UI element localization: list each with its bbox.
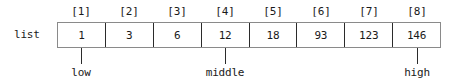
- array-container: 1 3 6 12 18 93 123 146: [57, 22, 441, 48]
- index-label-5: [5]: [249, 4, 297, 20]
- index-label-1: [1]: [57, 4, 105, 20]
- array-cell: 12: [202, 23, 250, 47]
- pointer-middle-label: middle: [206, 65, 245, 80]
- array-variable-label: list: [14, 27, 40, 43]
- pointer-middle-line: [225, 48, 227, 64]
- index-label-6: [6]: [297, 4, 345, 20]
- array-cell: 18: [250, 23, 298, 47]
- array-diagram: [1] [2] [3] [4] [5] [6] [7] [8] list 1 3…: [0, 0, 459, 83]
- index-label-7: [7]: [345, 4, 393, 20]
- index-label-4: [4]: [201, 4, 249, 20]
- array-cell: 1: [58, 23, 106, 47]
- index-label-8: [8]: [393, 4, 441, 20]
- pointer-high-label: high: [404, 65, 430, 80]
- pointer-low-line: [81, 48, 83, 64]
- array-cell: 146: [393, 23, 440, 47]
- array-cell: 123: [345, 23, 393, 47]
- pointer-low-label: low: [71, 65, 90, 80]
- index-label-3: [3]: [153, 4, 201, 20]
- pointer-high-line: [417, 48, 419, 64]
- array-cell: 6: [154, 23, 202, 47]
- index-label-2: [2]: [105, 4, 153, 20]
- array-cell: 93: [297, 23, 345, 47]
- array-cell: 3: [106, 23, 154, 47]
- index-label-row: [1] [2] [3] [4] [5] [6] [7] [8]: [57, 4, 441, 20]
